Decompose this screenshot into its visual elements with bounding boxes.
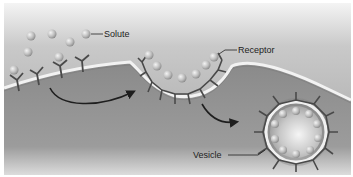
bound-solute <box>10 66 19 75</box>
endocytosis-diagram: Solute Receptor Vesicle <box>0 0 353 177</box>
bound-solute <box>55 53 64 62</box>
solute-particle <box>66 38 75 47</box>
vesicle-label: Vesicle <box>193 150 222 160</box>
diagram-graphic <box>0 0 353 177</box>
solute-particle <box>48 30 57 39</box>
solute-label: Solute <box>104 29 130 39</box>
receptor-label: Receptor <box>238 45 275 55</box>
solute-particle <box>27 32 36 41</box>
solute-particle <box>82 30 91 39</box>
solute-particle <box>24 48 33 57</box>
